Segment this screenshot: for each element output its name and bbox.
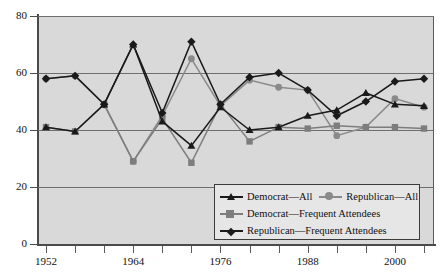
data-point [334,123,340,129]
data-point [333,132,340,139]
legend-row: Republican—Frequent Attendees [220,222,414,239]
chart-figure: 020406080 19521964197619882000 Democrat—… [0,0,440,280]
data-point [130,158,136,164]
data-point [363,124,369,130]
legend-row: Democrat—AllRepublican—All [220,188,414,205]
data-point [421,125,427,131]
legend-marker-triangle [227,193,235,200]
data-point [188,55,195,62]
data-point [275,84,282,91]
series-2 [43,101,427,166]
legend-item[interactable]: Republican—Frequent Attendees [220,225,387,236]
legend-label: Democrat—Frequent Attendees [247,208,380,219]
data-point [188,160,194,166]
legend-label: Democrat—All [247,191,312,202]
legend-row: Democrat—Frequent Attendees [220,205,414,222]
legend-key [220,191,243,202]
series-0 [42,41,428,149]
data-point [420,75,428,83]
legend-label: Republican—Frequent Attendees [247,225,387,236]
data-point [362,97,370,105]
legend-key [220,225,243,236]
data-point [187,37,195,45]
legend-item[interactable]: Democrat—Frequent Attendees [220,208,380,219]
data-point [246,138,252,144]
legend-item[interactable]: Republican—All [319,191,418,202]
legend-marker-square [226,210,234,218]
legend-label: Republican—All [346,191,418,202]
legend-item[interactable]: Democrat—All [220,191,312,202]
series-line [46,104,424,162]
legend-key [220,208,243,219]
legend-marker-circle [325,192,333,200]
chart-legend: Democrat—AllRepublican—AllDemocrat—Frequ… [214,184,420,240]
data-point [392,124,398,130]
data-point [362,89,370,96]
data-point [391,77,399,85]
legend-key [319,191,342,202]
series-line [46,59,424,162]
data-point [274,69,282,77]
data-point [42,75,50,83]
series-1 [43,55,428,164]
data-point [304,125,310,131]
